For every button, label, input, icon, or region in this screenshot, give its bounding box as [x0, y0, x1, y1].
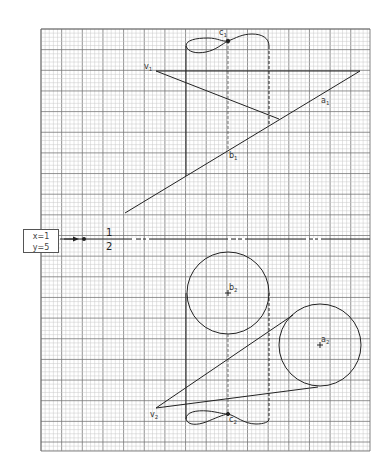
svg-text:b2: b2 [229, 283, 238, 293]
view-2-labels: b2 a2 v2 c2 [150, 283, 329, 425]
fold-line: 1 2 [60, 227, 370, 252]
coordinate-box: x=1 y=5 [23, 229, 59, 253]
line-a1-b1 [125, 71, 360, 213]
fold-label-2: 2 [106, 241, 112, 252]
x-coordinate: x=1 [24, 231, 58, 242]
origin-dot [82, 237, 86, 241]
svg-text:a2: a2 [321, 335, 329, 345]
view-1-labels: v1 a1 b1 c1 [144, 28, 329, 161]
svg-text:v1: v1 [144, 62, 152, 72]
fold-label-1: 1 [106, 227, 112, 238]
y-coordinate: y=5 [24, 242, 58, 253]
svg-text:c1: c1 [219, 28, 227, 38]
cylinder-bottom-wave-2b [186, 414, 228, 424]
svg-text:a1: a1 [321, 96, 329, 106]
svg-text:c2: c2 [229, 415, 237, 425]
point-c1 [226, 39, 230, 43]
svg-text:v2: v2 [150, 410, 158, 420]
cylinder-bottom-edge-1 [186, 41, 228, 53]
